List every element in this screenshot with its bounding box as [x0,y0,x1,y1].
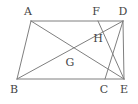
vertex-label-h: H [93,33,103,44]
geometry-canvas [0,0,138,104]
vertex-label-c: C [100,84,108,95]
vertex-label-d: D [119,6,128,17]
vertex-label-e: E [120,84,128,95]
diagonal-b-d [17,21,123,79]
vertex-label-g: G [66,57,75,68]
segment-a-b [17,21,31,79]
vertex-label-b: B [10,84,18,95]
vertex-label-a: A [24,6,32,17]
diagonal-a-e [31,21,124,79]
segment-d-e [123,21,124,79]
geometry-figure: AFDHGBCE [0,0,138,104]
segments-group [17,21,124,79]
vertex-label-f: F [92,6,100,17]
